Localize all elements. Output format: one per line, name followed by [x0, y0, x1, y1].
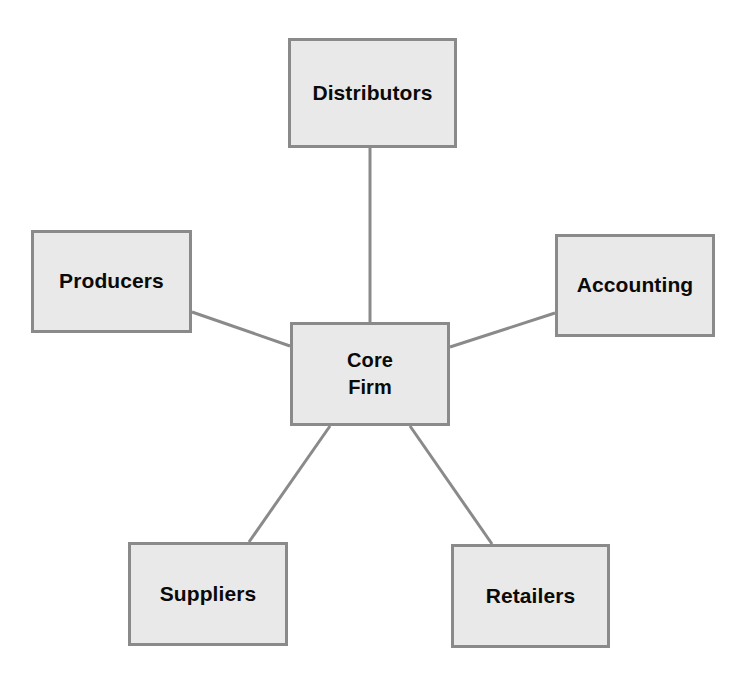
- connector-core-firm-to-suppliers: [249, 426, 330, 542]
- node-core-firm[interactable]: Core Firm: [290, 322, 450, 426]
- connector-core-firm-to-accounting: [450, 313, 555, 347]
- node-retailers-label: Retailers: [486, 583, 576, 609]
- node-producers-label: Producers: [59, 268, 164, 294]
- node-distributors[interactable]: Distributors: [288, 38, 457, 148]
- connector-producers-to-core-firm: [192, 312, 290, 346]
- node-producers[interactable]: Producers: [31, 230, 192, 333]
- node-distributors-label: Distributors: [312, 80, 432, 106]
- node-accounting[interactable]: Accounting: [555, 234, 715, 337]
- connector-core-firm-to-retailers: [410, 426, 492, 544]
- node-suppliers[interactable]: Suppliers: [128, 542, 288, 646]
- diagram-canvas: Distributors Producers Accounting Core F…: [0, 0, 739, 676]
- node-accounting-label: Accounting: [577, 272, 694, 298]
- node-core-firm-label: Core Firm: [347, 347, 393, 401]
- node-retailers[interactable]: Retailers: [451, 544, 610, 648]
- node-suppliers-label: Suppliers: [160, 581, 257, 607]
